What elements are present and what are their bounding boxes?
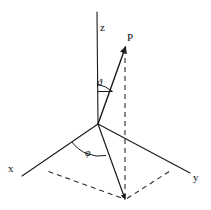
polar-angle-label: ϑ — [97, 77, 103, 88]
y-axis-label: y — [193, 171, 199, 183]
z-axis-label: z — [100, 21, 105, 33]
azimuth-angle-label: φ — [85, 147, 91, 158]
point-p-label: P — [127, 31, 133, 43]
label-layer: z P x y ϑ φ — [0, 0, 211, 210]
spherical-coordinates-figure: z P x y ϑ φ — [0, 0, 211, 210]
x-axis-label: x — [8, 162, 14, 174]
